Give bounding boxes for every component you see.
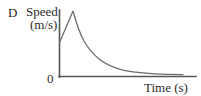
plot-area [0,0,201,96]
speed-vs-time-graph-option-d: D Speed (m/s) 0 Time (s) [0,0,201,96]
speed-curve [60,11,183,75]
